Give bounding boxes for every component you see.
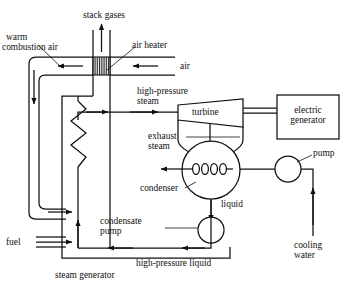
air-heater-leader: [107, 47, 135, 70]
pump-leader: [297, 155, 312, 162]
label-electric-generator-line1: electric: [277, 105, 339, 115]
label-exhaust-steam-line2: steam: [148, 141, 170, 151]
label-liquid: liquid: [221, 199, 243, 209]
turbine-shaft: [243, 108, 277, 113]
label-exhaust-steam-line1: exhaust: [148, 131, 177, 141]
label-pump: pump: [313, 148, 334, 158]
label-air-heater: air heater: [132, 40, 167, 50]
air-heater-block: [93, 57, 110, 75]
label-turbine: turbine: [192, 107, 219, 117]
diagram-canvas: stack gases warm combustion air air heat…: [0, 0, 347, 290]
label-cooling-water-line2: water: [294, 250, 315, 260]
label-steam-generator: steam generator: [55, 270, 115, 280]
high-pressure-liquid-line: [78, 243, 211, 248]
label-air: air: [180, 61, 190, 71]
cooling-water-pump: [275, 156, 301, 182]
label-high-pressure-liquid: high-pressure liquid: [136, 258, 211, 268]
label-condensate-pump-line1: condensate: [100, 216, 142, 226]
cooling-water-inlet-line: [301, 169, 313, 236]
label-warm-combustion-air-line2: combustion air: [2, 42, 58, 52]
label-high-pressure-steam-line2: steam: [137, 96, 159, 106]
label-stack-gases: stack gases: [68, 10, 140, 20]
label-electric-generator-line2: generator: [277, 115, 339, 125]
label-condensate-pump-line2: pump: [100, 226, 121, 236]
label-cooling-water-line1: cooling: [294, 240, 322, 250]
label-condenser: condenser: [140, 183, 178, 193]
warm-combustion-air-duct: [29, 57, 93, 219]
label-high-pressure-steam-line1: high-pressure: [137, 86, 188, 96]
label-warm-combustion-air-line1: warm: [6, 32, 27, 42]
label-fuel: fuel: [6, 237, 21, 247]
